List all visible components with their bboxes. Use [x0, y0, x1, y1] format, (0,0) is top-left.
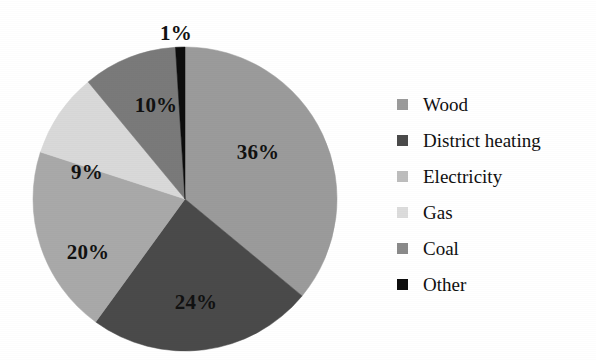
legend-item-label: Other — [423, 275, 466, 294]
pie-label-district-heating: 24% — [175, 292, 218, 313]
pie-label-gas: 9% — [71, 162, 103, 183]
pie-label-coal: 10% — [135, 95, 178, 116]
legend-item-gas[interactable]: Gas — [397, 194, 592, 230]
chart-legend: WoodDistrict heatingElectricityGasCoalOt… — [397, 86, 592, 302]
legend-item-label: District heating — [423, 131, 541, 150]
legend-swatch-icon — [397, 207, 408, 218]
legend-item-coal[interactable]: Coal — [397, 230, 592, 266]
legend-swatch-icon — [397, 99, 408, 110]
legend-item-label: Wood — [423, 95, 468, 114]
legend-swatch-icon — [397, 171, 408, 182]
legend-item-label: Electricity — [423, 167, 502, 186]
legend-item-district-heating[interactable]: District heating — [397, 122, 592, 158]
pie-chart-figure: 36%24%20%9%10%1% WoodDistrict heatingEle… — [0, 0, 596, 360]
legend-item-label: Gas — [423, 203, 453, 222]
legend-item-electricity[interactable]: Electricity — [397, 158, 592, 194]
legend-swatch-icon — [397, 135, 408, 146]
legend-item-other[interactable]: Other — [397, 266, 592, 302]
legend-item-wood[interactable]: Wood — [397, 86, 592, 122]
legend-swatch-icon — [397, 243, 408, 254]
legend-item-label: Coal — [423, 239, 459, 258]
pie-plot-area: 36%24%20%9%10%1% — [0, 0, 380, 360]
legend-swatch-icon — [397, 279, 408, 290]
pie-label-other: 1% — [160, 23, 192, 44]
pie-label-electricity: 20% — [67, 242, 110, 263]
pie-label-wood: 36% — [237, 142, 280, 163]
